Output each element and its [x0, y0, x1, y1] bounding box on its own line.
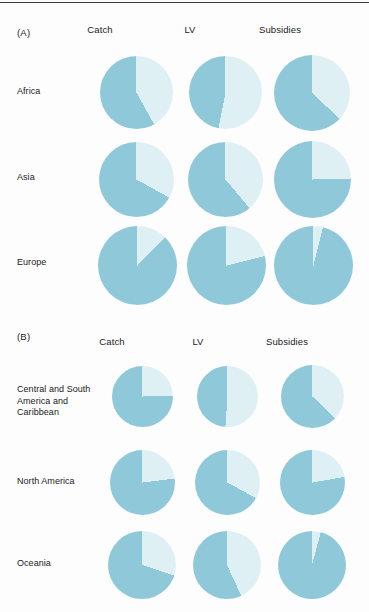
pie-b-oceania-lv [193, 531, 261, 599]
pie-slices [274, 226, 353, 305]
panel-b-row-label-north-america: North America [17, 476, 103, 488]
pie-a-europe-subsidies [274, 226, 353, 305]
panel-a-label: (A) [17, 27, 30, 38]
panel-b: (B) Catch LV Subsidies Central and South… [0, 318, 369, 612]
pie-slices [188, 142, 263, 217]
pie-a-africa-subsidies [274, 55, 350, 131]
pie-a-africa-lv [189, 56, 262, 129]
panel-b-label: (B) [17, 331, 30, 342]
pie-slices [274, 141, 351, 218]
pie-slices [189, 56, 262, 129]
pie-slices [187, 226, 266, 305]
panel-b-column-header-catch: Catch [82, 336, 142, 347]
pie-b-north-america-lv [195, 450, 260, 515]
pie-b-north-america-catch [110, 450, 175, 515]
pie-a-africa-catch [100, 56, 173, 129]
pie-slices [108, 531, 176, 599]
top-horizontal-rule [0, 2, 369, 3]
panel-a-row-label-asia: Asia [17, 172, 103, 184]
pie-b-csa-lv [197, 366, 258, 427]
pie-b-oceania-subsidies [278, 531, 346, 599]
pie-slices [278, 531, 346, 599]
pie-b-north-america-subsidies [280, 450, 345, 515]
pie-b-oceania-catch [108, 531, 176, 599]
pie-b-csa-catch [112, 366, 173, 427]
pie-slices [193, 531, 261, 599]
pie-slices [99, 142, 174, 217]
pie-slices [100, 56, 173, 129]
pie-slices [197, 366, 258, 427]
panel-b-column-header-subsidies: Subsidies [252, 336, 322, 347]
pie-slices [281, 365, 344, 428]
panel-a-column-header-subsidies: Subsidies [245, 24, 315, 35]
pie-slices [112, 366, 173, 427]
panel-a-column-header-lv: LV [160, 24, 220, 35]
pie-a-asia-lv [188, 142, 263, 217]
panel-a-column-header-catch: Catch [70, 24, 130, 35]
pie-b-csa-subsidies [281, 365, 344, 428]
panel-a-row-label-africa: Africa [17, 86, 103, 98]
pie-a-europe-catch [98, 226, 177, 305]
pie-slices [274, 55, 350, 131]
pie-slices [280, 450, 345, 515]
panel-b-column-header-lv: LV [168, 336, 228, 347]
pie-slices [98, 226, 177, 305]
panel-a: (A) Catch LV Subsidies Africa Asia Europ… [0, 14, 369, 304]
panel-b-row-label-central-south-america: Central and South America and Caribbean [17, 384, 97, 419]
panel-b-row-label-oceania: Oceania [17, 558, 103, 570]
pie-slices [195, 450, 260, 515]
pie-a-europe-lv [187, 226, 266, 305]
panel-a-row-label-europe: Europe [17, 257, 103, 269]
pie-a-asia-subsidies [274, 141, 351, 218]
pie-slices [110, 450, 175, 515]
figure-root: (A) Catch LV Subsidies Africa Asia Europ… [0, 0, 369, 612]
pie-a-asia-catch [99, 142, 174, 217]
